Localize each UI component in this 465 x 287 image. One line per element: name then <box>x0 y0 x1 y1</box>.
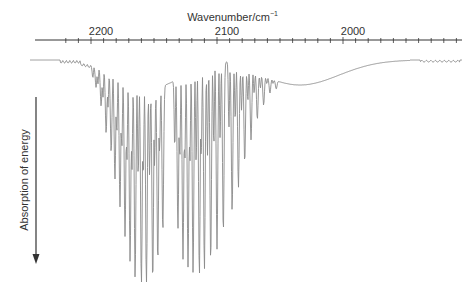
spectrum-plot <box>0 0 465 287</box>
x-axis <box>35 37 462 44</box>
arrow-down-icon <box>33 254 40 264</box>
spectrum-trace <box>30 60 462 282</box>
absorption-arrow <box>33 97 40 264</box>
